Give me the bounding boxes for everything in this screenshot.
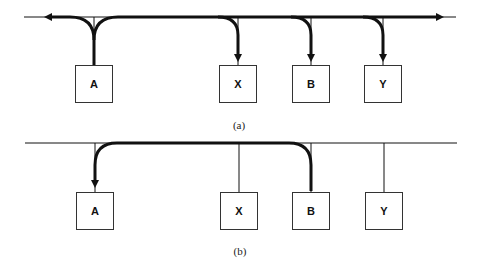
- node-b-A: A: [76, 192, 114, 230]
- arrow-a-to-left: [48, 17, 94, 65]
- node-b-X: X: [220, 192, 258, 230]
- node-a-X: X: [219, 65, 257, 103]
- arrow-b-to-A: [95, 143, 311, 191]
- arrow-to-Y: [363, 17, 383, 58]
- arrow-a-to-right: [94, 17, 440, 40]
- arrow-to-B: [291, 17, 311, 58]
- arrow-to-X: [218, 17, 238, 58]
- caption-b: (b): [225, 245, 255, 257]
- caption-a: (a): [224, 119, 254, 131]
- node-b-B: B: [292, 192, 330, 230]
- node-a-B: B: [292, 65, 330, 103]
- panel-a: [24, 17, 456, 65]
- node-a-Y: Y: [364, 65, 402, 103]
- node-b-Y: Y: [365, 192, 403, 230]
- node-a-A: A: [75, 65, 113, 103]
- panel-b: [25, 143, 457, 192]
